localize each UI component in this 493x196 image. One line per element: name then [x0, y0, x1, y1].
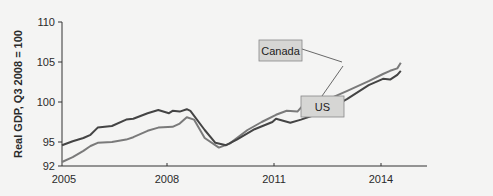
x-tick-label: 2011 [262, 173, 286, 185]
x-tick-label: 2014 [369, 173, 393, 185]
canada-label-text: Canada [261, 45, 300, 57]
us-label-text: US [315, 101, 330, 113]
y-tick-label: 100 [37, 96, 55, 108]
chart-background [0, 0, 493, 196]
y-tick-label: 95 [43, 136, 55, 148]
gdp-line-chart: Real GDP, Q3 2008 = 100 110 105 100 95 9… [0, 0, 493, 196]
y-tick-label: 105 [37, 56, 55, 68]
y-tick-label: 92 [43, 160, 55, 172]
x-tick-label: 2005 [52, 173, 76, 185]
y-tick-label: 110 [37, 16, 55, 28]
y-axis-title: Real GDP, Q3 2008 = 100 [12, 30, 24, 158]
x-tick-label: 2008 [155, 173, 179, 185]
